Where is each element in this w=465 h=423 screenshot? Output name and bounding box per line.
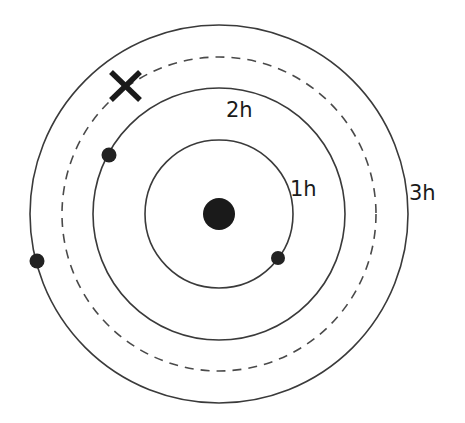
nucleus-dot [203,198,235,230]
label-3h: 3h [409,181,436,205]
body-on-orbit-1h [271,251,285,265]
orbit-diagram: 1h 2h 3h [0,0,465,423]
body-on-orbit-3h [30,254,45,269]
label-1h: 1h [290,177,317,201]
body-on-orbit-2h [102,148,117,163]
label-2h: 2h [226,98,253,122]
